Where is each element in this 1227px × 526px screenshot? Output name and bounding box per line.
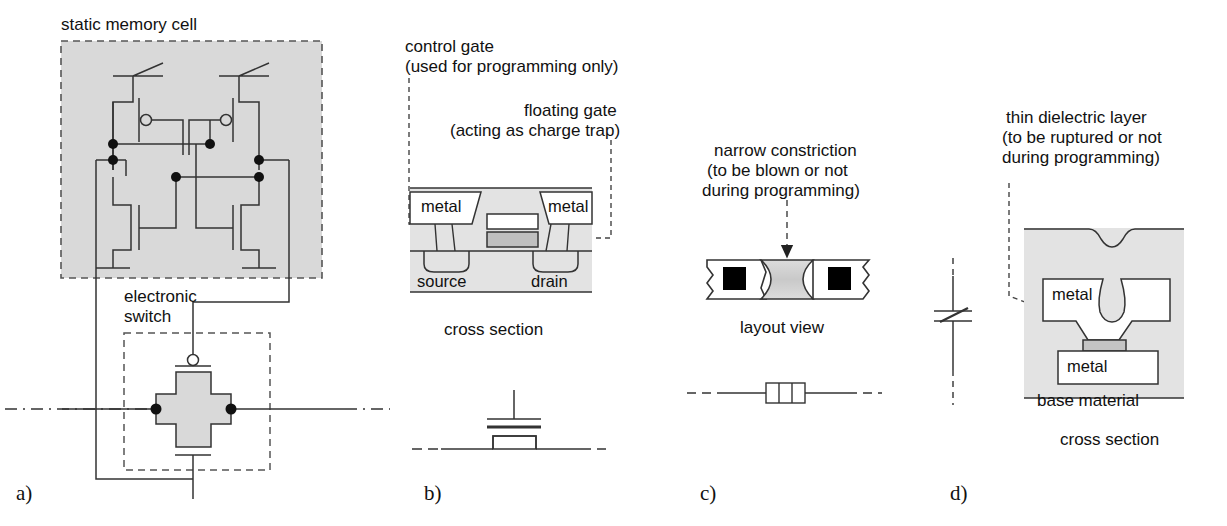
- junction-dot: [254, 172, 264, 182]
- constriction-label-line2: (to be blown or not: [707, 161, 848, 181]
- panel-a-group: [5, 41, 390, 499]
- base-material-label: base material: [1037, 391, 1139, 411]
- junction-dot: [151, 404, 162, 415]
- pmos-right-gate-bubble: [221, 115, 232, 126]
- drain-label: drain: [531, 272, 568, 291]
- panel-b-caption: cross section: [444, 320, 543, 340]
- metal-bottom-label: metal: [1067, 357, 1107, 376]
- panel-c-caption: layout view: [740, 318, 824, 338]
- panel-a-title: static memory cell: [61, 15, 197, 35]
- control-gate-block: [487, 214, 538, 229]
- dielectric-label-line2: (to be ruptured or not: [1002, 128, 1162, 148]
- panel-letter-d: d): [950, 481, 968, 506]
- junction-dot: [108, 155, 118, 165]
- panel-letter-c: c): [700, 481, 716, 506]
- figure-canvas: static memory cell electronic switch a) …: [0, 0, 1227, 526]
- fuse-constriction: [761, 260, 813, 299]
- fg-symbol-channel-shape: [493, 436, 536, 449]
- fuse-contact-square-right: [828, 267, 851, 290]
- antifuse-symbol-slash: [940, 308, 968, 322]
- control-gate-label-line1: control gate: [405, 37, 494, 57]
- junction-dot: [171, 172, 181, 182]
- switch-pmos-gate-bubble: [188, 355, 199, 366]
- control-gate-label-line2: (used for programming only): [405, 57, 619, 77]
- constriction-label-line1: narrow constriction: [714, 141, 857, 161]
- source-label: source: [417, 272, 467, 291]
- floating-gate-label-line1: floating gate: [524, 101, 617, 121]
- electronic-switch-label-line2: switch: [124, 307, 171, 327]
- pmos-left-gate-bubble: [141, 115, 152, 126]
- junction-dot: [205, 139, 215, 149]
- fuse-symbol-body: [766, 383, 805, 403]
- junction-dot: [226, 404, 237, 415]
- floating-gate-block: [487, 232, 538, 247]
- junction-dot: [254, 155, 264, 165]
- fuse-contact-square-left: [723, 267, 746, 290]
- dielectric-label-line1: thin dielectric layer: [1006, 108, 1147, 128]
- fg-symbol-channel: [493, 436, 536, 449]
- figure-svg: [0, 0, 1227, 526]
- thin-dielectric-layer: [1083, 340, 1126, 351]
- panel-letter-b: b): [424, 481, 442, 506]
- transmission-gate-cross: [156, 372, 231, 447]
- metal-right-label: metal: [548, 197, 588, 216]
- panel-letter-a: a): [16, 481, 32, 506]
- floating-gate-label-line2: (acting as charge trap): [450, 121, 620, 141]
- metal-left-label: metal: [421, 197, 461, 216]
- electronic-switch-label-line1: electronic: [124, 287, 197, 307]
- constriction-label-line3: during programming): [702, 181, 860, 201]
- metal-top-label: metal: [1052, 285, 1092, 304]
- junction-dot: [108, 139, 118, 149]
- panel-c-group: [687, 200, 882, 403]
- panel-d-caption: cross section: [1060, 430, 1159, 450]
- dielectric-label-line3: during programming): [1002, 148, 1160, 168]
